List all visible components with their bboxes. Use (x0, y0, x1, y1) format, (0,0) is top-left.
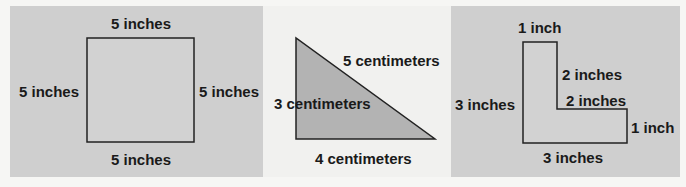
square-right-label: 5 inches (199, 84, 259, 99)
l-inner-vertical-label: 2 inches (562, 67, 622, 82)
l-left-label: 3 inches (455, 97, 515, 112)
triangle-hypotenuse-label: 5 centimeters (343, 53, 440, 68)
l-inner-horizontal-label: 2 inches (566, 93, 626, 108)
triangle-base-label: 4 centimeters (315, 151, 412, 166)
triangle-height-label: 3 centimeters (274, 96, 371, 111)
square-top-label: 5 inches (111, 16, 171, 31)
l-bottom-label: 3 inches (543, 150, 603, 165)
l-top-label: 1 inch (518, 20, 561, 35)
l-right-label: 1 inch (631, 120, 674, 135)
square-shape (87, 38, 194, 142)
square-bottom-label: 5 inches (111, 152, 171, 167)
square-left-label: 5 inches (19, 84, 79, 99)
